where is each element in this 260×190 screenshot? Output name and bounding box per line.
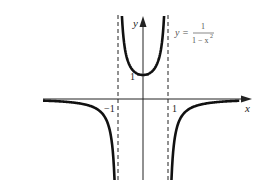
y-tick-label-1: 1 xyxy=(130,71,135,82)
annotation-denominator: 1 − x xyxy=(192,36,209,45)
function-annotation: y = 1 1 − x 2 xyxy=(174,22,214,45)
annotation-exponent: 2 xyxy=(210,33,213,39)
y-axis-arrow-icon xyxy=(140,16,147,27)
annotation-numerator: 1 xyxy=(201,22,205,31)
x-axis-label: x xyxy=(244,102,250,114)
x-tick-label-minus-1: −1 xyxy=(104,103,115,114)
annotation-lhs: y = xyxy=(174,27,189,38)
function-graph: y x −1 1 1 y = 1 1 − x 2 xyxy=(0,0,260,190)
y-axis-label: y xyxy=(132,17,138,29)
x-tick-label-1: 1 xyxy=(172,103,177,114)
curve-right-branch xyxy=(171,101,239,180)
